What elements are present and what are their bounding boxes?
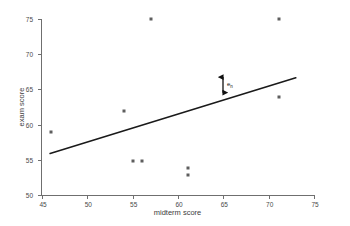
x-tick-60: 60: [178, 195, 179, 199]
y-tick-70: 70: [38, 54, 42, 55]
scatter-plot-figure: 50 55 60 65 70 75 45 50 55 60 65 70 75 e…: [0, 0, 350, 226]
y-tick-label-75: 75: [26, 17, 33, 24]
data-point: [141, 159, 144, 162]
x-tick-label-75: 75: [311, 202, 318, 209]
residual-subscript: n: [230, 84, 233, 89]
x-tick-label-45: 45: [39, 202, 46, 209]
x-tick-75: 75: [314, 195, 315, 199]
x-tick-70: 70: [269, 195, 270, 199]
data-point: [186, 173, 189, 176]
x-tick-label-55: 55: [130, 202, 137, 209]
x-axis-label: midterm score: [41, 209, 314, 217]
x-tick-label-65: 65: [221, 202, 228, 209]
x-tick-50: 50: [87, 195, 88, 199]
y-tick-label-65: 65: [26, 87, 33, 94]
y-tick-label-70: 70: [26, 52, 33, 59]
x-tick-45: 45: [42, 195, 43, 199]
x-tick-label-50: 50: [85, 202, 92, 209]
residual-label: en: [227, 81, 233, 90]
data-point: [50, 131, 53, 134]
data-point: [150, 18, 153, 21]
y-tick-label-55: 55: [26, 158, 33, 165]
x-tick-55: 55: [133, 195, 134, 199]
y-axis-label: exam score: [18, 88, 26, 127]
y-tick-label-50: 50: [26, 193, 33, 200]
data-point: [277, 95, 280, 98]
data-point: [277, 18, 280, 21]
data-point: [132, 159, 135, 162]
data-point: [122, 110, 125, 113]
y-tick-75: 75: [38, 19, 42, 20]
x-tick-65: 65: [223, 195, 224, 199]
plot-area: 50 55 60 65 70 75 45 50 55 60 65 70 75: [41, 19, 314, 196]
y-tick-65: 65: [38, 89, 42, 90]
x-tick-label-70: 70: [266, 202, 273, 209]
y-tick-55: 55: [38, 160, 42, 161]
data-point: [186, 166, 189, 169]
y-tick-label-60: 60: [26, 122, 33, 129]
y-tick-60: 60: [38, 125, 42, 126]
